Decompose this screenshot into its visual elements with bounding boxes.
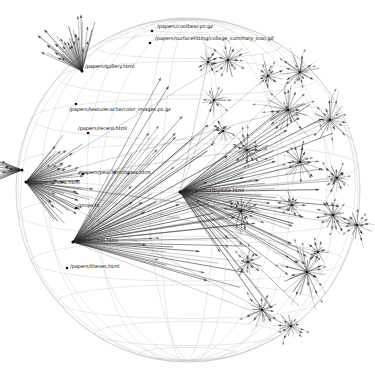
node-label-theses[interactable]: /papers/theses.html [70, 264, 119, 270]
graph-node [179, 191, 182, 194]
node-label-sortbydate[interactable]: /papers/sortbydate.html [184, 188, 244, 194]
node-label-collage[interactable]: /papers/surfacefitting/collage_summary_i… [155, 36, 274, 42]
graph-node [81, 70, 84, 73]
node-label-recent[interactable]: /papers/recent.html [78, 126, 127, 132]
visualization-canvas[interactable]: /papers/coolbear.ps.gz/papers/surfacefit… [0, 0, 375, 381]
node-label-yearindex[interactable]: /papers/year.html/index.html [79, 170, 151, 176]
graph-node [75, 103, 78, 106]
graph-node [25, 181, 28, 184]
graph-node [66, 267, 69, 270]
graph-node [75, 207, 78, 210]
node-label-index[interactable]: /papers/index.html [33, 180, 80, 186]
graph-node [151, 30, 154, 33]
node-label-colorimages[interactable]: /papers/texturecache/color_images.ps.gz [69, 107, 171, 113]
node-label-coolbear[interactable]: /papers/coolbear.ps.gz [157, 24, 213, 30]
node-label-bib[interactable]: /papers/bib.html [77, 238, 118, 244]
node-label-projects[interactable]: /projects [78, 203, 99, 209]
graph-node [149, 42, 152, 45]
graph-node [87, 132, 90, 135]
node-label-gallery[interactable]: /papers/gallery.html [85, 64, 134, 70]
graph-node [72, 241, 75, 244]
